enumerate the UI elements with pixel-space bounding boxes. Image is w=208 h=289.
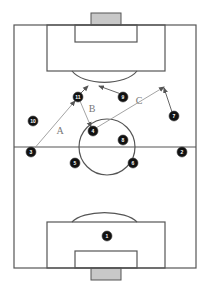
pass-lines: ABC bbox=[33, 87, 164, 150]
player-3: 3 bbox=[26, 147, 36, 157]
tactics-diagram: ABC 1234567891011 bbox=[0, 0, 208, 289]
pass-label: C bbox=[136, 95, 143, 106]
player-5: 5 bbox=[70, 158, 80, 168]
top-penalty-arc bbox=[72, 71, 137, 82]
player-11: 11 bbox=[73, 92, 83, 102]
player-number: 2 bbox=[181, 149, 184, 155]
player-6: 6 bbox=[128, 158, 138, 168]
player-number: 9 bbox=[122, 94, 125, 100]
player-number: 6 bbox=[132, 160, 135, 166]
player-number: 5 bbox=[74, 160, 77, 166]
pass-label: B bbox=[89, 103, 96, 114]
player-number: 3 bbox=[30, 149, 33, 155]
player-4: 4 bbox=[88, 126, 98, 136]
bottom-goal-area bbox=[75, 251, 137, 268]
player-number: 8 bbox=[122, 137, 125, 143]
bottom-penalty-arc bbox=[72, 213, 137, 222]
top-goal bbox=[91, 13, 121, 25]
bottom-goal bbox=[91, 268, 121, 280]
player-8: 8 bbox=[118, 135, 128, 145]
player-2: 2 bbox=[177, 147, 187, 157]
top-penalty-box bbox=[47, 25, 165, 71]
player-7: 7 bbox=[169, 111, 179, 121]
pass-label: A bbox=[56, 125, 64, 136]
top-goal-area bbox=[75, 25, 137, 42]
player-number: 10 bbox=[30, 118, 36, 124]
player-number: 11 bbox=[75, 94, 81, 100]
run-arrow bbox=[164, 88, 172, 112]
player-number: 7 bbox=[173, 113, 176, 119]
bottom-penalty-box bbox=[47, 222, 165, 268]
player-1: 1 bbox=[102, 231, 112, 241]
run-arrow bbox=[99, 86, 121, 94]
player-10: 10 bbox=[28, 116, 38, 126]
player-9: 9 bbox=[118, 92, 128, 102]
player-number: 1 bbox=[106, 233, 109, 239]
players: 1234567891011 bbox=[26, 92, 187, 241]
pass-arrow-a bbox=[33, 101, 75, 150]
player-number: 4 bbox=[92, 128, 95, 134]
pass-arrow-c bbox=[96, 87, 164, 128]
